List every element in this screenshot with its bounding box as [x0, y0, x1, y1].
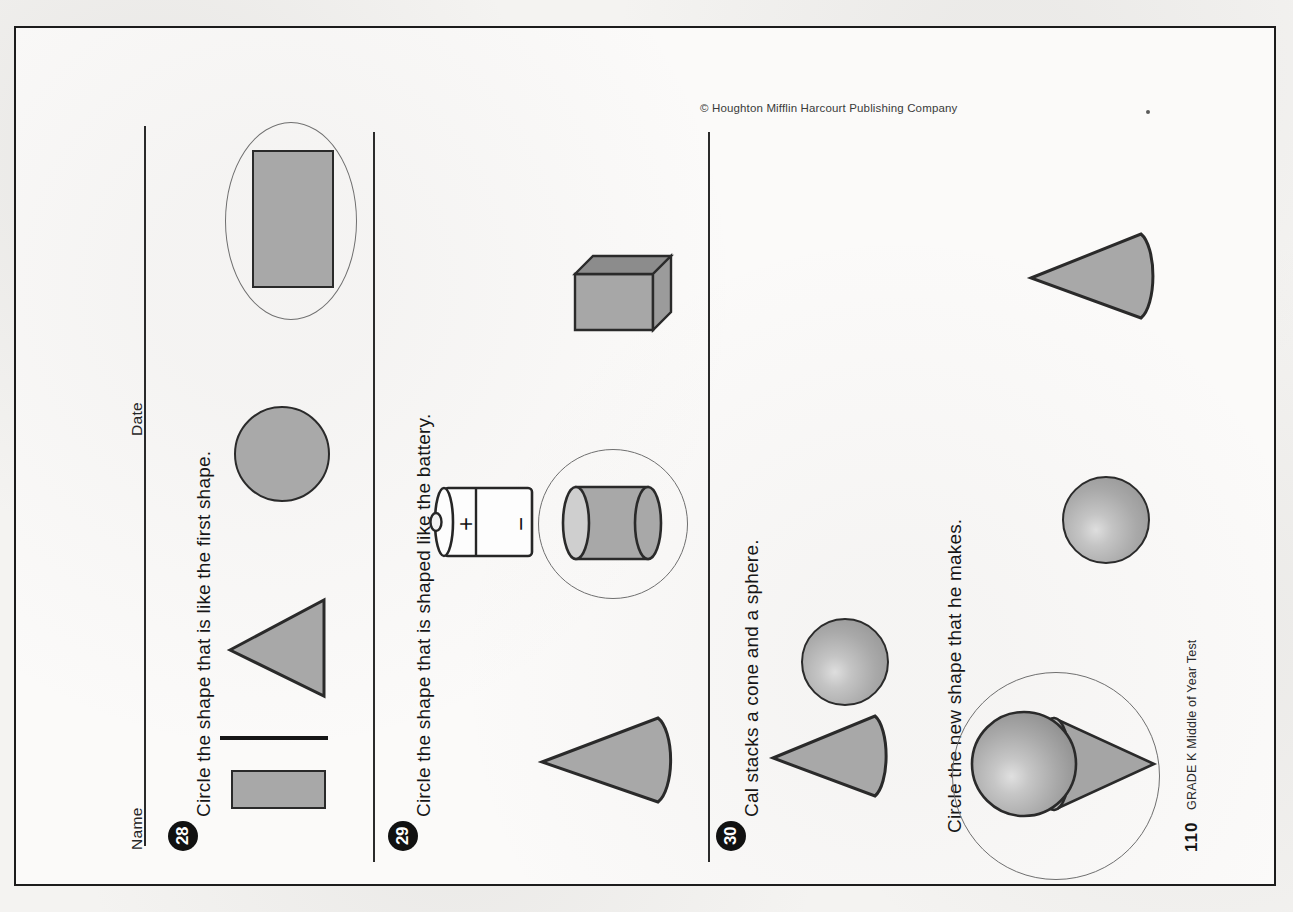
- shape-given-sphere-30: [801, 618, 889, 706]
- footer-page-number: 110: [1182, 822, 1202, 852]
- shape-choice-triangle-28[interactable]: [228, 592, 328, 700]
- scan-speck: [1146, 110, 1150, 114]
- pencil-circle-mark-29: [538, 449, 688, 599]
- shape-choice-circle-28[interactable]: [234, 406, 330, 502]
- footer-test-label: GRADE K Middle of Year Test: [1185, 639, 1199, 810]
- item-prompt-29: Circle the shape that is shaped like the…: [413, 414, 435, 817]
- date-label: Date: [128, 402, 146, 436]
- worksheet-sheet: © Houghton Mifflin Harcourt Publishing C…: [14, 26, 1276, 886]
- item-number-badge-28: 28: [168, 821, 198, 851]
- shape-choice-cone-29[interactable]: [540, 712, 686, 806]
- pencil-circle-mark-28: [225, 122, 357, 320]
- item-number-badge-29: 29: [388, 821, 418, 851]
- shape-choice-rectangular-prism-29[interactable]: [561, 252, 676, 334]
- item-prompt-30: Cal stacks a cone and a sphere.: [741, 539, 763, 817]
- pencil-circle-mark-30: [952, 672, 1160, 880]
- item-prompt-28: Circle the shape that is like the first …: [193, 451, 215, 817]
- battery-minus-symbol: −: [507, 517, 535, 531]
- shape-choice-sphere-30[interactable]: [1062, 476, 1150, 564]
- name-field-rule[interactable]: [144, 126, 146, 846]
- shape-choice-cone-30[interactable]: [1029, 228, 1169, 322]
- copyright-notice: © Houghton Mifflin Harcourt Publishing C…: [700, 102, 957, 114]
- item-number-badge-30: 30: [716, 821, 746, 851]
- scanned-page-image: © Houghton Mifflin Harcourt Publishing C…: [0, 0, 1293, 912]
- shape-given-cone-30: [771, 710, 901, 800]
- item-28-separator-rule: [220, 736, 328, 740]
- column-divider-1: [373, 132, 375, 862]
- battery-plus-symbol: +: [452, 517, 480, 531]
- shape-given-rectangle-28: [231, 770, 326, 809]
- column-divider-2: [708, 132, 710, 862]
